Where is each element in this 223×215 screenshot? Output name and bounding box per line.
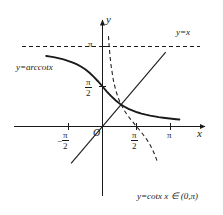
fraction-denominator: 2 <box>131 140 138 151</box>
fraction-pi-over-2: π 2 <box>85 78 92 99</box>
fraction-numerator: π <box>131 131 138 140</box>
x-tick-neg-pi-half: − π 2 <box>57 131 69 152</box>
y-axis-label: y <box>106 14 111 25</box>
fraction-numerator: π <box>62 131 69 140</box>
y-tick-pi: π <box>88 40 93 49</box>
x-tick-pi-half: π 2 <box>131 131 138 152</box>
x-axis-label: x <box>197 128 202 139</box>
fraction-denominator: 2 <box>85 87 92 98</box>
x-tick-pi: π <box>167 131 172 140</box>
origin-label: O <box>93 128 100 138</box>
fraction-pi-over-2: π 2 <box>131 131 138 152</box>
math-figure: y x O π π 2 − π 2 π 2 π y=arccotx y=x y=… <box>0 0 223 215</box>
arccot-curve-label: y=arccotx <box>16 63 53 72</box>
cot-curve-label: y=cotx x ∈ (0,π) <box>137 192 198 201</box>
identity-line-label: y=x <box>176 28 190 37</box>
fraction-numerator: π <box>85 78 92 87</box>
fraction-pi-over-2: π 2 <box>62 131 69 152</box>
y-tick-pi-half: π 2 <box>85 78 92 99</box>
fraction-denominator: 2 <box>62 140 69 151</box>
arccot-curve <box>46 56 179 120</box>
